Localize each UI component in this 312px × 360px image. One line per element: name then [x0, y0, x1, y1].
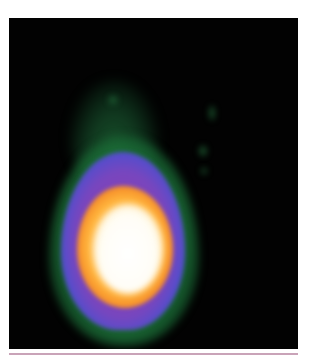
- bottom-rule: [9, 353, 298, 355]
- bright-core-white: [93, 204, 163, 294]
- micrograph-frame: [9, 18, 298, 349]
- debris-fleck: [209, 106, 215, 120]
- debris-fleck: [109, 96, 117, 104]
- debris-fleck: [201, 168, 207, 174]
- debris-fleck: [199, 146, 207, 156]
